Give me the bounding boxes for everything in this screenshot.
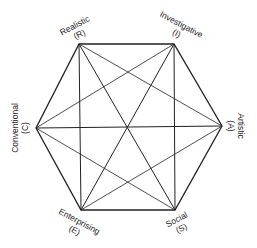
riasec-hexagon-diagram: Realistic (R) Investigative (I) Artistic…	[0, 0, 257, 248]
svg-text:(C): (C)	[20, 122, 30, 134]
label-conventional: Conventional (C)	[10, 103, 30, 153]
label-enterprising: Enterprising (E)	[52, 206, 102, 245]
svg-text:(I): (I)	[171, 27, 183, 40]
svg-text:(A): (A)	[226, 120, 236, 132]
edge-I-C	[36, 44, 174, 128]
edge-A-E	[81, 126, 222, 210]
edge-R-E	[79, 44, 81, 210]
label-realistic: Realistic (R)	[58, 13, 96, 46]
edges	[36, 44, 222, 210]
svg-text:Artistic: Artistic	[236, 113, 246, 139]
svg-text:Conventional: Conventional	[10, 103, 20, 153]
label-artistic: Artistic (A)	[226, 113, 246, 139]
edge-S-C	[36, 128, 175, 210]
label-investigative: Investigative (I)	[154, 9, 205, 49]
label-social: Social (S)	[164, 209, 194, 238]
svg-text:Investigative: Investigative	[158, 9, 205, 40]
edge-A-C	[36, 126, 222, 128]
